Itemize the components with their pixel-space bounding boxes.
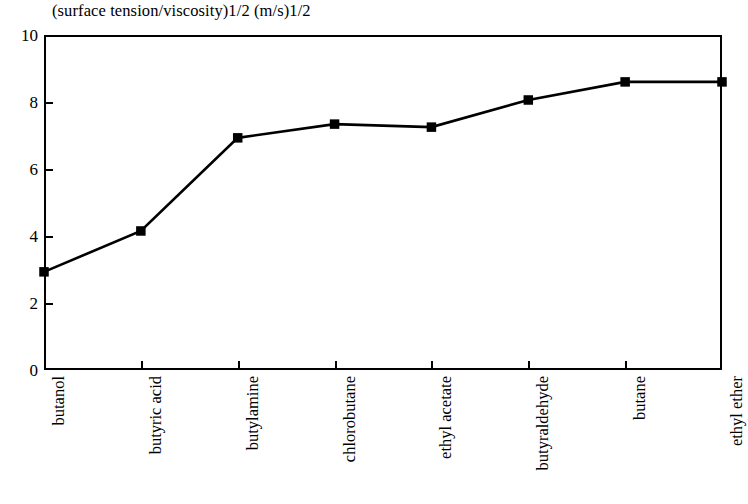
chart-title: (surface tension/viscosity)1/2 (m/s)1/2 <box>52 1 311 21</box>
x-tick-mark <box>431 361 433 370</box>
x-tick-mark <box>528 361 530 370</box>
x-category-label: butane <box>631 376 648 420</box>
x-category-label: ethyl acetate <box>437 376 454 459</box>
y-tick-label: 4 <box>4 228 38 245</box>
x-tick-mark <box>335 361 337 370</box>
x-category-label: butanol <box>50 376 67 426</box>
chart-figure: (surface tension/viscosity)1/2 (m/s)1/2 … <box>0 0 748 504</box>
x-category-label: butyric acid <box>147 376 164 454</box>
y-tick-label: 6 <box>4 161 38 178</box>
x-category-label: chlorobutane <box>341 376 358 462</box>
x-axis-ticks <box>44 35 722 370</box>
x-tick-mark <box>625 361 627 370</box>
x-category-label: ethyl ether <box>728 376 745 446</box>
y-axis-tick-labels: 0246810 <box>0 35 38 370</box>
x-tick-mark <box>238 361 240 370</box>
y-tick-label: 10 <box>4 27 38 44</box>
x-category-label: butyraldehyde <box>534 376 551 470</box>
x-axis-category-labels: butanolbutyric acidbutylaminechlorobutan… <box>0 370 748 504</box>
x-category-label: butylamine <box>244 376 261 450</box>
y-tick-label: 2 <box>4 295 38 312</box>
y-tick-label: 8 <box>4 94 38 111</box>
x-tick-mark <box>141 361 143 370</box>
